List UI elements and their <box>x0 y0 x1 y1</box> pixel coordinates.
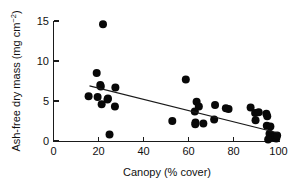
x-axis-ticks <box>54 137 279 142</box>
data-point <box>264 135 272 143</box>
data-point <box>98 100 106 108</box>
data-point <box>255 108 263 116</box>
data-point <box>85 92 93 100</box>
x-tick-label-40: 40 <box>137 145 149 157</box>
y-axis-title-superscript: −2 <box>9 14 18 23</box>
x-tick-label-80: 80 <box>227 145 239 157</box>
data-point <box>211 101 219 109</box>
x-axis-title: Canopy (% cover) <box>123 166 211 178</box>
data-point <box>93 69 101 77</box>
data-point <box>199 119 207 127</box>
y-axis-tick-labels: 15 10 5 0 <box>37 15 49 147</box>
y-axis-title: Ash-free dry mass (mg cm−2) <box>9 10 22 151</box>
data-point <box>263 112 271 120</box>
y-tick-label-0: 0 <box>43 135 49 147</box>
data-point <box>252 116 260 124</box>
scatter-plot-figure: 15 10 5 0 0 20 40 60 80 100 Canopy (% co… <box>0 0 303 191</box>
chart-canvas: 15 10 5 0 0 20 40 60 80 100 Canopy (% co… <box>0 0 303 191</box>
y-axis-title-main: Ash-free dry mass (mg cm <box>10 23 22 152</box>
data-point <box>99 20 107 28</box>
x-tick-label-100: 100 <box>269 145 287 157</box>
data-point <box>106 131 114 139</box>
y-axis-title-group: Ash-free dry mass (mg cm−2) <box>9 10 22 151</box>
y-tick-label-10: 10 <box>37 55 49 67</box>
data-point <box>182 75 190 83</box>
data-point <box>111 83 119 91</box>
x-tick-label-0: 0 <box>50 145 56 157</box>
axes-group <box>53 21 280 142</box>
y-tick-label-5: 5 <box>43 95 49 107</box>
x-tick-label-60: 60 <box>182 145 194 157</box>
x-axis-tick-labels: 0 20 40 60 80 100 <box>50 145 287 157</box>
data-point <box>225 105 233 113</box>
data-point <box>168 117 176 125</box>
data-point <box>266 123 274 131</box>
y-axis-title-tail: ) <box>10 10 22 14</box>
data-point <box>191 120 199 128</box>
data-series-layer <box>85 20 282 143</box>
x-tick-label-20: 20 <box>92 145 104 157</box>
y-tick-label-15: 15 <box>37 15 49 27</box>
data-point <box>111 103 119 111</box>
data-point <box>94 93 102 101</box>
y-axis-ticks <box>54 21 59 141</box>
